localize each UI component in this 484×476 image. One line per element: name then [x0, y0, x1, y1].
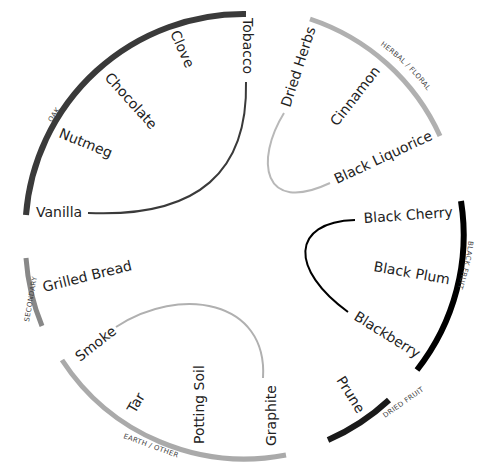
note-black-liquorice[interactable]: Black Liquorice: [332, 127, 435, 186]
note-black-plum[interactable]: Black Plum: [372, 258, 451, 287]
category-earth-other: EARTH / OTHER Smoke Tar Potting Soil Gra…: [62, 304, 286, 460]
category-secondary: SECONDARY Grilled Bread: [23, 257, 133, 326]
flavor-wheel: OAK Vanilla Nutmeg Chocolate Clove Tobac…: [0, 0, 484, 476]
note-blackberry[interactable]: Blackberry: [351, 308, 423, 361]
note-clove[interactable]: Clove: [167, 28, 198, 70]
category-herbal-floral: HERBAL / FLORAL Dried Herbs Cinnamon Bla…: [268, 19, 440, 193]
note-vanilla[interactable]: Vanilla: [36, 204, 82, 220]
flavor-wheel-svg: OAK Vanilla Nutmeg Chocolate Clove Tobac…: [0, 0, 484, 476]
note-prune[interactable]: Prune: [333, 373, 368, 416]
note-tar[interactable]: Tar: [123, 389, 148, 416]
category-dried-fruit: DRIED FRUIT Prune: [328, 373, 426, 440]
category-black-fruit: BLACK FRUIT Black Cherry Black Plum Blac…: [305, 201, 474, 370]
note-grilled-bread[interactable]: Grilled Bread: [41, 257, 134, 295]
category-oak: OAK Vanilla Nutmeg Chocolate Clove Tobac…: [26, 14, 256, 220]
black-fruit-link: [305, 220, 355, 312]
earth-arc: [62, 360, 286, 459]
earth-link: [116, 304, 263, 378]
note-cinnamon[interactable]: Cinnamon: [327, 63, 383, 129]
note-potting-soil[interactable]: Potting Soil: [191, 365, 207, 444]
herbal-link: [268, 113, 330, 193]
note-smoke[interactable]: Smoke: [72, 323, 119, 365]
note-black-cherry[interactable]: Black Cherry: [363, 204, 453, 226]
note-tobacco[interactable]: Tobacco: [240, 17, 256, 74]
note-chocolate[interactable]: Chocolate: [102, 69, 161, 132]
note-nutmeg[interactable]: Nutmeg: [57, 125, 115, 161]
note-graphite[interactable]: Graphite: [263, 385, 279, 446]
note-dried-herbs[interactable]: Dried Herbs: [278, 25, 319, 109]
